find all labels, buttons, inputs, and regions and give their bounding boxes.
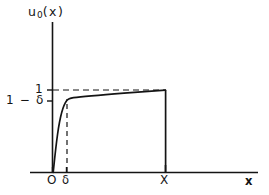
y-axis-label-argument: (x)	[43, 4, 65, 19]
y-axis-label: u0(x)	[28, 6, 64, 20]
x-tick-label-origin: O	[47, 174, 57, 186]
x-axis-label: x	[245, 176, 253, 188]
x-tick-label-cap-x: X	[160, 174, 169, 186]
y-tick-label-one-minus-delta: 1 − δ	[6, 94, 45, 106]
figure-container: u0(x) 1 1 − δ O δ X x	[0, 0, 269, 195]
x-tick-label-delta: δ	[62, 175, 70, 187]
y-axis-label-base: u	[28, 4, 37, 19]
solution-curve	[53, 90, 165, 172]
